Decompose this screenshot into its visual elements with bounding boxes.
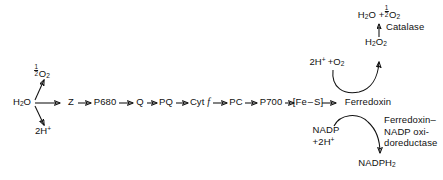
node-h2o: H2O <box>13 97 31 108</box>
node-p700: P700 <box>260 97 283 107</box>
label-protons-plus-oxygen: 2H+ +O2 <box>309 57 344 68</box>
node-pc: PC <box>229 97 242 107</box>
label-catalase-enzyme: Catalase <box>386 22 424 32</box>
node-pq: PQ <box>159 97 173 107</box>
fraction-one-half-catalase: 12 <box>384 5 388 19</box>
label-half-oxygen: 12O2 <box>34 64 50 80</box>
node-cyt-f: Cyt f <box>190 97 210 107</box>
diagram-arrows-layer <box>0 0 443 180</box>
label-two-protons: 2H+ <box>35 126 51 136</box>
label-nadp-reactant: NADP+2H+ <box>313 124 340 147</box>
arrow-h2o-to-oxygen <box>35 80 44 100</box>
photosynthesis-electron-transport-diagram: H2O Z P680 Q PQ Cyt f PC P700 [Fe – S] F… <box>0 0 443 180</box>
label-nadph2: NADPH2 <box>358 158 395 169</box>
node-fe-s-cluster: [Fe – S] <box>293 97 323 107</box>
label-water-plus-half-oxygen: H2O +12O2 <box>358 5 400 21</box>
label-ferredoxin-nadp-oxidoreductase: Ferredoxin–NADP oxi-doreductase <box>384 114 437 149</box>
node-q: Q <box>136 97 144 107</box>
node-p680: P680 <box>94 97 117 107</box>
node-ferredoxin: Ferredoxin <box>345 97 391 107</box>
fraction-one-half: 12 <box>34 64 38 78</box>
curved-arrow-ferredoxin-to-nadph2 <box>334 116 380 153</box>
node-z: Z <box>68 97 74 107</box>
label-hydrogen-peroxide: H2O2 <box>365 37 387 48</box>
arrow-h2o-to-protons <box>35 106 44 125</box>
